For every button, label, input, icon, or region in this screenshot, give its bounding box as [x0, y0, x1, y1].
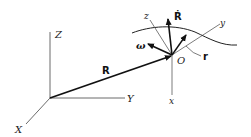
angular-velocity-label: ω — [136, 40, 146, 51]
position-vector-arrow — [50, 56, 171, 98]
local-z-label: z — [143, 11, 149, 21]
relative-position-arrow — [172, 35, 186, 55]
kinematics-diagram: Z Y X R x z y O Ṙ ω r — [0, 0, 251, 137]
global-x-axis — [26, 98, 50, 124]
position-vector: R — [50, 56, 171, 98]
global-x-label: X — [14, 124, 23, 135]
position-vector-label: R — [102, 65, 110, 76]
local-y-axis — [172, 24, 220, 55]
local-y-label: y — [219, 18, 226, 28]
global-axes: Z Y X — [14, 29, 135, 135]
global-y-label: Y — [127, 93, 135, 104]
origin-label: O — [177, 55, 185, 66]
global-z-label: Z — [54, 29, 63, 40]
velocity-vector-label: Ṙ — [174, 9, 182, 22]
relative-position-leader — [186, 46, 201, 56]
moving-frame: x z y O — [143, 11, 226, 106]
relative-position-label: r — [203, 51, 208, 62]
local-x-label: x — [169, 96, 174, 106]
